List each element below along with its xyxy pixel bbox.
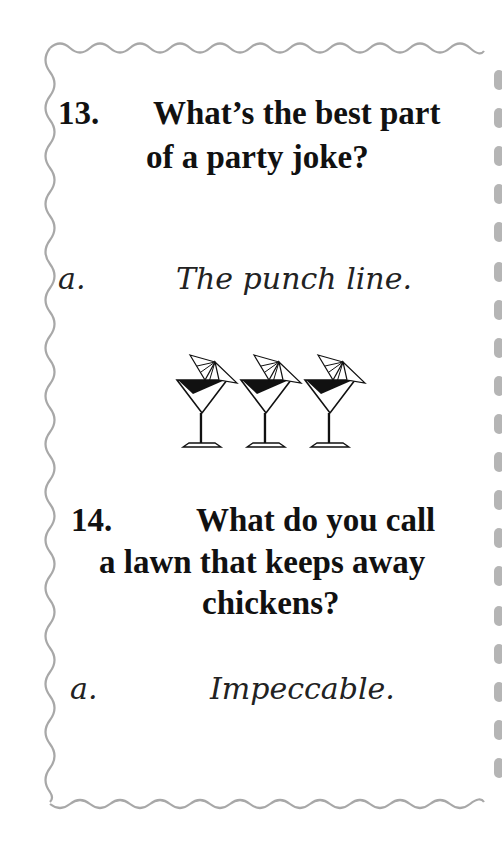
question-text-line2: a lawn that keeps away	[99, 543, 425, 581]
question-text-line1: What do you call	[196, 501, 435, 539]
question-text-line1: What’s the best part	[153, 94, 441, 132]
question-number: 13.	[58, 94, 99, 132]
answer-label: a.	[58, 261, 85, 296]
answer-text: The punch line.	[176, 261, 412, 296]
question-number: 14.	[71, 501, 112, 539]
martini-glasses-icon	[175, 350, 375, 455]
question-text-line2: of a party joke?	[146, 138, 369, 176]
answer-text: Impeccable.	[210, 671, 395, 706]
question-text-line3: chickens?	[202, 584, 340, 622]
answer-label: a.	[70, 671, 97, 706]
